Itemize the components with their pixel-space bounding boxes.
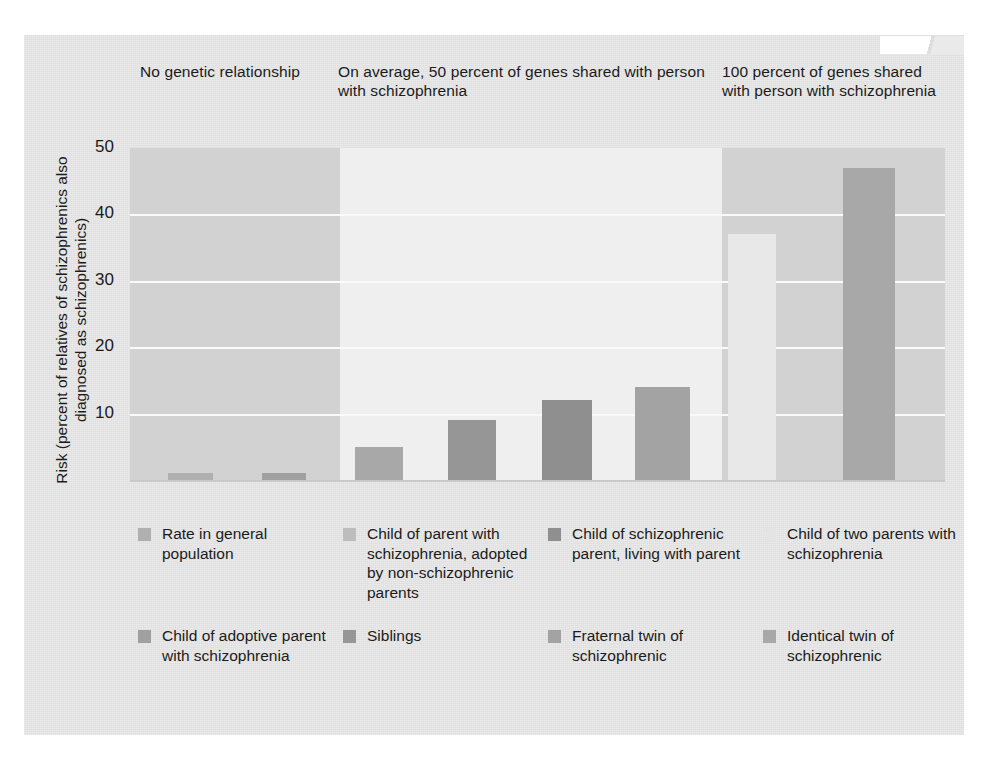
legend-item[interactable]: Siblings: [343, 626, 537, 646]
legend-label: Rate in general population: [162, 524, 332, 563]
y-tick-label-50: 50: [72, 137, 114, 157]
y-tick-label-40: 40: [72, 203, 114, 223]
legend-swatch-icon: [343, 630, 356, 643]
gridline-40: [130, 214, 945, 216]
legend-item[interactable]: Child of adoptive parent with schizophre…: [138, 626, 332, 665]
legend-swatch-icon: [548, 630, 561, 643]
legend-row-1: Rate in general populationChild of paren…: [138, 524, 938, 619]
legend-item[interactable]: Fraternal twin of schizophrenic: [548, 626, 742, 665]
legend-swatch-icon: [138, 528, 151, 541]
bar-8: [843, 168, 895, 480]
bar-5: [542, 400, 592, 480]
legend-item[interactable]: Child of parent with schizophrenia, adop…: [343, 524, 537, 602]
y-tick-label-30: 30: [72, 270, 114, 290]
legend-item[interactable]: Rate in general population: [138, 524, 332, 563]
bar-4: [448, 420, 496, 480]
panel-header-hundred-percent-genes: 100 percent of genes shared with person …: [722, 62, 942, 100]
chart-figure: No genetic relationship On average, 50 p…: [0, 0, 988, 759]
legend-label: Child of two parents with schizophrenia: [787, 524, 957, 563]
panel-background-1: [130, 148, 340, 480]
legend-item[interactable]: Child of two parents with schizophrenia: [763, 524, 957, 563]
legend-label: Child of parent with schizophrenia, adop…: [367, 524, 537, 602]
y-tick-label-10: 10: [72, 403, 114, 423]
scan-corner-artifact: [880, 36, 964, 54]
x-axis-baseline: [130, 480, 945, 482]
gridline-10: [130, 414, 945, 416]
legend-label: Fraternal twin of schizophrenic: [572, 626, 742, 665]
legend-label: Siblings: [367, 626, 537, 646]
legend-swatch-icon: [138, 630, 151, 643]
bar-3: [355, 447, 403, 480]
legend-label: Child of schizophrenic parent, living wi…: [572, 524, 742, 563]
legend-item[interactable]: Child of schizophrenic parent, living wi…: [548, 524, 742, 563]
bar-6: [635, 387, 690, 480]
y-axis-label: Risk (percent of relatives of schizophre…: [52, 140, 92, 500]
gridline-30: [130, 281, 945, 283]
panel-header-fifty-percent-genes: On average, 50 percent of genes shared w…: [338, 62, 718, 100]
legend-label: Identical twin of schizophrenic: [787, 626, 957, 665]
legend-swatch-icon: [343, 528, 356, 541]
legend-swatch-icon: [548, 528, 561, 541]
legend-swatch-icon: [763, 528, 776, 541]
panel-header-no-genetic-relationship: No genetic relationship: [140, 62, 320, 81]
bar-2: [262, 473, 306, 480]
legend-item[interactable]: Identical twin of schizophrenic: [763, 626, 957, 665]
bar-1: [168, 473, 213, 480]
legend-label: Child of adoptive parent with schizophre…: [162, 626, 332, 665]
legend-swatch-icon: [763, 630, 776, 643]
bar-7: [728, 234, 776, 480]
plot-area: [130, 148, 945, 480]
y-tick-label-20: 20: [72, 336, 114, 356]
gridline-20: [130, 347, 945, 349]
legend-row-2: Child of adoptive parent with schizophre…: [138, 626, 938, 721]
